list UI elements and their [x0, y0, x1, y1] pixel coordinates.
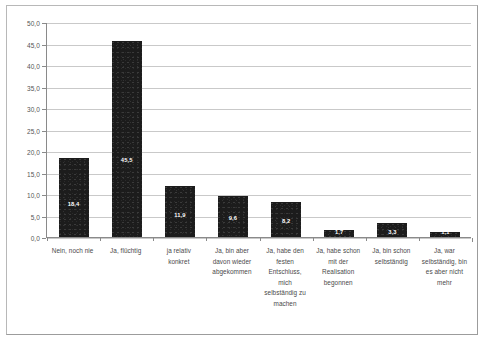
plot-area: 18,445,511,99,68,21,73,31,1: [46, 23, 471, 238]
x-axis-tick-mark: [153, 237, 154, 241]
bar-value-label: 11,9: [174, 212, 185, 218]
y-axis-tick-label: 0,0: [31, 235, 40, 242]
bar[interactable]: 8,2: [271, 202, 301, 237]
x-axis-category-label: Ja, war selbständig, bin es aber nicht m…: [422, 246, 468, 288]
bar-slot: 45,5: [100, 23, 153, 237]
y-axis-tick-mark: [42, 217, 46, 218]
x-axis-category-label: Ja, bin aber davon wieder abgekommen: [209, 246, 255, 278]
bar-slot: 3,3: [366, 23, 419, 237]
y-axis-tick-mark: [42, 174, 46, 175]
bar[interactable]: 18,4: [59, 158, 89, 237]
x-axis-category-label: Ja, habe schon mit der Realisation begon…: [315, 246, 361, 288]
bar-value-label: 45,5: [121, 157, 133, 163]
y-axis-tick-mark: [42, 23, 46, 24]
chart-frame: 18,445,511,99,68,21,73,31,1 50,045,040,0…: [6, 5, 478, 335]
x-axis-tick-mark: [47, 237, 48, 241]
x-axis-tick-mark: [100, 237, 101, 241]
x-axis-tick-mark: [366, 237, 367, 241]
bar-slot: 11,9: [153, 23, 206, 237]
y-axis-tick-label: 35,0: [27, 84, 40, 91]
bar-slot: 1,7: [313, 23, 366, 237]
y-axis-tick-mark: [42, 195, 46, 196]
bar[interactable]: 3,3: [377, 223, 407, 237]
plot-wrapper: 18,445,511,99,68,21,73,31,1 50,045,040,0…: [46, 23, 471, 238]
y-axis-tick-label: 25,0: [27, 127, 40, 134]
x-axis-tick-mark: [472, 238, 473, 242]
x-axis-tick-mark: [419, 237, 420, 241]
y-axis-tick-label: 20,0: [27, 149, 40, 156]
x-axis-tick-mark: [206, 237, 207, 241]
bar[interactable]: 1,7: [324, 230, 354, 237]
y-axis-tick-label: 45,0: [27, 41, 40, 48]
y-axis-tick-mark: [42, 238, 46, 239]
bar[interactable]: 1,1: [430, 232, 460, 237]
bar[interactable]: 9,6: [218, 196, 248, 237]
bar[interactable]: 45,5: [112, 41, 142, 237]
y-axis-tick-label: 50,0: [27, 20, 40, 27]
bar-value-label: 1,1: [441, 229, 449, 235]
x-axis-category-label: Ja, flüchtig: [103, 246, 149, 257]
bar-value-label: 9,6: [229, 215, 237, 221]
y-axis-tick-mark: [42, 45, 46, 46]
y-axis-tick-label: 15,0: [27, 170, 40, 177]
bar-slot: 8,2: [260, 23, 313, 237]
bar-value-label: 3,3: [388, 229, 396, 235]
x-axis-labels: Nein, noch nieJa, flüchtigja relativ kon…: [46, 246, 471, 328]
bar-value-label: 8,2: [282, 218, 290, 224]
y-axis-tick-label: 30,0: [27, 106, 40, 113]
y-axis-tick-label: 5,0: [31, 213, 40, 220]
y-axis-tick-label: 10,0: [27, 192, 40, 199]
x-axis-category-label: Ja, bin schon selbständig: [368, 246, 414, 267]
x-axis-category-label: ja relativ konkret: [156, 246, 202, 267]
bar-slot: 1,1: [419, 23, 472, 237]
bar-value-label: 18,4: [68, 201, 80, 207]
y-axis-tick-mark: [42, 152, 46, 153]
bar-slot: 9,6: [206, 23, 259, 237]
x-axis-category-label: Nein, noch nie: [50, 246, 96, 257]
y-axis-tick-label: 40,0: [27, 63, 40, 70]
x-axis-category-label: Ja, habe den festen Entschluss, mich sel…: [262, 246, 308, 309]
y-axis-tick-mark: [42, 66, 46, 67]
y-axis-tick-mark: [42, 109, 46, 110]
bar-slot: 18,4: [47, 23, 100, 237]
x-axis-tick-mark: [260, 237, 261, 241]
y-axis-tick-mark: [42, 88, 46, 89]
bar-value-label: 1,7: [335, 229, 343, 235]
bar[interactable]: 11,9: [165, 186, 195, 237]
y-axis-tick-mark: [42, 131, 46, 132]
x-axis-tick-mark: [313, 237, 314, 241]
